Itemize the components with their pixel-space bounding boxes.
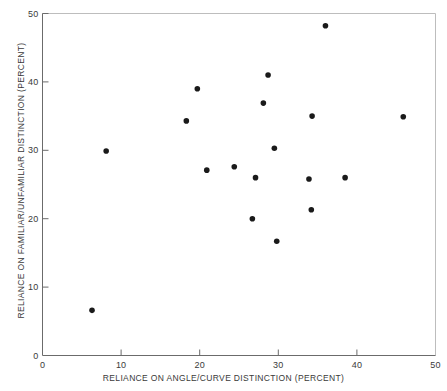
data-point-0	[89, 308, 95, 314]
data-point-9	[265, 72, 271, 78]
x-tick-label-50: 50	[430, 361, 440, 370]
data-point-7	[253, 175, 259, 181]
data-point-12	[306, 176, 312, 182]
data-point-3	[195, 86, 201, 92]
data-point-1	[103, 148, 109, 154]
data-point-4	[204, 167, 210, 173]
data-point-16	[342, 175, 348, 181]
data-point-14	[309, 113, 315, 119]
data-point-8	[261, 100, 267, 106]
y-axis-title: RELIANCE ON FAMILIAR/UNFAMILIAR DISTINCT…	[14, 3, 28, 358]
x-tick-label-10: 10	[116, 361, 126, 370]
data-point-10	[272, 145, 278, 151]
data-point-5	[231, 164, 237, 170]
data-point-2	[184, 118, 190, 124]
x-tick-label-0: 0	[40, 361, 45, 370]
data-point-15	[323, 23, 329, 29]
data-point-17	[400, 114, 406, 120]
x-axis-title: RELIANCE ON ANGLE/CURVE DISTINCTION (PER…	[0, 373, 447, 383]
data-point-6	[250, 216, 256, 222]
scatter-plot-figure: 0102030405001020304050 RELIANCE ON ANGLE…	[0, 0, 447, 391]
data-point-group	[89, 23, 406, 313]
x-tick-label-40: 40	[352, 361, 362, 370]
x-tick-label-30: 30	[273, 361, 283, 370]
plot-canvas	[0, 0, 447, 391]
data-point-13	[309, 207, 315, 213]
data-point-11	[274, 238, 280, 244]
x-tick-label-20: 20	[194, 361, 204, 370]
